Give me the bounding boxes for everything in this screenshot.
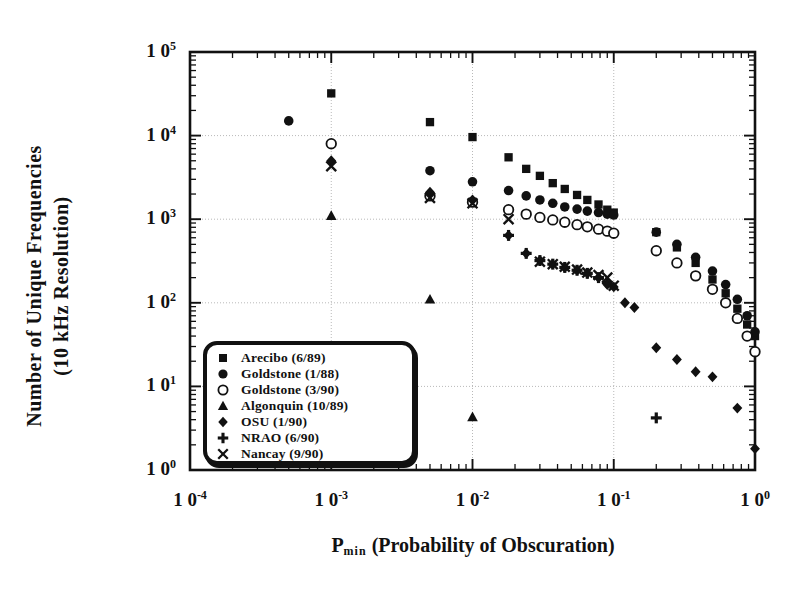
x-tick-label: 1 0-3 — [296, 488, 366, 511]
data-point — [561, 185, 569, 193]
data-point — [583, 206, 593, 216]
data-point — [548, 215, 558, 225]
y-tick-label: 1 04 — [120, 123, 176, 146]
data-point — [691, 366, 701, 377]
data-point — [521, 248, 532, 259]
data-point — [672, 258, 682, 268]
data-point — [733, 305, 741, 313]
y-tick-label: 1 05 — [120, 39, 176, 62]
data-point — [651, 342, 661, 353]
data-point — [573, 191, 581, 199]
data-point — [594, 208, 604, 218]
data-point — [504, 205, 514, 215]
legend-label: Arecibo (6/89) — [241, 350, 326, 366]
legend-label: Algonquin (10/89) — [241, 398, 348, 414]
data-point — [691, 253, 701, 263]
legend-item[interactable]: Arecibo (6/89) — [215, 350, 412, 366]
data-point — [743, 320, 751, 328]
x-tick-label: 1 0-4 — [155, 488, 225, 511]
data-point — [284, 116, 294, 126]
data-point — [672, 354, 682, 365]
data-point — [326, 210, 337, 220]
data-point — [708, 371, 718, 382]
data-point — [672, 240, 682, 250]
data-point — [651, 246, 661, 256]
data-point — [522, 165, 530, 173]
data-point — [732, 403, 742, 414]
data-point — [549, 179, 557, 187]
data-point — [503, 230, 514, 241]
data-point — [583, 196, 591, 204]
legend-marker-plus-icon — [215, 430, 241, 446]
data-point — [750, 347, 760, 357]
data-point — [708, 275, 716, 283]
legend-item[interactable]: Nancay (9/90) — [215, 446, 412, 462]
data-point — [708, 285, 718, 295]
data-point — [583, 222, 593, 232]
data-point — [535, 195, 545, 205]
data-point — [468, 133, 476, 141]
series-2 — [326, 139, 759, 357]
data-point — [721, 298, 731, 308]
legend-label: Goldstone (3/90) — [241, 382, 339, 398]
data-point — [620, 297, 630, 308]
data-point — [327, 89, 335, 97]
data-point — [467, 412, 478, 422]
data-point — [742, 311, 752, 321]
data-point — [609, 228, 619, 238]
y-tick-label: 1 00 — [120, 457, 176, 480]
legend-item[interactable]: NRAO (6/90) — [215, 430, 412, 446]
legend-item[interactable]: OSU (1/90) — [215, 414, 412, 430]
data-point — [691, 271, 701, 281]
legend-marker-cross-icon — [215, 446, 241, 462]
data-point — [560, 217, 570, 227]
y-tick-label: 1 01 — [120, 373, 176, 396]
x-tick-label: 1 0-2 — [438, 488, 508, 511]
data-point — [535, 213, 545, 223]
data-point — [326, 139, 336, 149]
legend-marker-filled-square-icon — [215, 350, 241, 366]
data-point — [521, 191, 531, 201]
data-point — [651, 412, 662, 423]
data-point — [504, 186, 514, 196]
data-point — [426, 118, 434, 126]
legend: Arecibo (6/89)Goldstone (1/88)Goldstone … — [203, 341, 416, 465]
data-point — [722, 289, 730, 297]
legend-label: Nancay (9/90) — [241, 446, 323, 462]
x-tick-label: 1 00 — [720, 488, 790, 511]
legend-label: OSU (1/90) — [241, 414, 307, 430]
legend-marker-filled-diamond-icon — [215, 414, 241, 430]
data-point — [504, 153, 512, 161]
data-point — [521, 209, 531, 219]
legend-marker-open-circle-icon — [215, 382, 241, 398]
data-point — [572, 220, 582, 230]
data-point — [742, 331, 752, 341]
series-1 — [284, 116, 760, 336]
data-point — [733, 295, 743, 305]
data-point — [536, 172, 544, 180]
data-point — [708, 266, 718, 276]
legend-label: NRAO (6/90) — [241, 430, 319, 446]
data-point — [609, 210, 619, 220]
data-point — [560, 202, 570, 212]
legend-marker-filled-circle-icon — [215, 366, 241, 382]
data-point — [721, 280, 731, 290]
legend-item[interactable]: Algonquin (10/89) — [215, 398, 412, 414]
series-5 — [503, 230, 662, 423]
x-tick-label: 1 0-1 — [579, 488, 649, 511]
data-point — [572, 204, 582, 214]
data-point — [548, 199, 558, 209]
y-tick-label: 1 03 — [120, 206, 176, 229]
legend-item[interactable]: Goldstone (3/90) — [215, 382, 412, 398]
legend-label: Goldstone (1/88) — [241, 366, 339, 382]
y-tick-label: 1 02 — [120, 290, 176, 313]
data-point — [733, 314, 743, 324]
data-point — [425, 294, 436, 304]
data-point — [468, 177, 478, 187]
data-point — [629, 302, 639, 313]
legend-item[interactable]: Goldstone (1/88) — [215, 366, 412, 382]
legend-marker-filled-triangle-icon — [215, 398, 241, 414]
data-point — [651, 227, 661, 237]
data-point — [425, 166, 435, 176]
data-point — [594, 200, 602, 208]
